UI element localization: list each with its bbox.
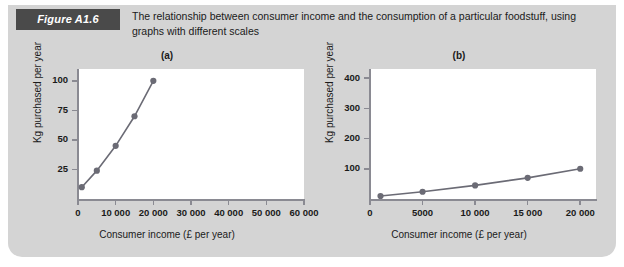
panel-b-y-tick — [364, 77, 369, 79]
panel-a-x-tick — [266, 200, 268, 205]
panel-b-x-tick-label: 10 000 — [450, 207, 500, 218]
figure-caption: The relationship between consumer income… — [132, 9, 602, 38]
panel-a-y-tick — [72, 139, 77, 141]
data-point-marker — [94, 168, 100, 174]
panel-b-x-tick — [527, 200, 529, 205]
panel-a-x-tick — [303, 200, 305, 205]
data-point-marker — [79, 184, 85, 190]
panel-a-y-tick-label: 75 — [20, 104, 68, 115]
chart-panel-a: (a) Kg purchased per year Consumer incom… — [20, 47, 314, 255]
panel-b-y-tick — [364, 168, 369, 170]
data-point-marker — [525, 175, 531, 181]
figure-number-badge: Figure A1.6 — [16, 9, 120, 30]
panel-b-x-tick-label: 0 — [345, 207, 395, 218]
data-point-marker — [150, 78, 156, 84]
series-line — [381, 169, 581, 196]
panel-a-x-tick — [77, 200, 79, 205]
data-point-marker — [377, 193, 383, 199]
panel-b-x-tick-label: 5000 — [398, 207, 448, 218]
panel-a-y-tick — [72, 80, 77, 82]
panel-b-x-tick-label: 15 000 — [503, 207, 553, 218]
figure-header: Figure A1.6 The relationship between con… — [8, 5, 616, 49]
panel-b-y-tick-label: 200 — [312, 132, 360, 143]
data-point-marker — [419, 189, 425, 195]
series-line — [82, 81, 154, 187]
panel-b-y-tick-label: 100 — [312, 162, 360, 173]
panel-b-x-tick — [474, 200, 476, 205]
panel-a-y-tick — [72, 169, 77, 171]
panel-b-x-tick-label: 20 000 — [555, 207, 605, 218]
panel-b-x-tick — [579, 200, 581, 205]
panel-b-x-tick — [369, 200, 371, 205]
panel-b-y-tick — [364, 138, 369, 140]
data-point-marker — [577, 166, 583, 172]
panel-a-x-tick — [115, 200, 117, 205]
data-point-marker — [113, 143, 119, 149]
chart-panel-b: (b) Kg purchased per year Consumer incom… — [312, 47, 606, 255]
panel-b-y-tick-label: 400 — [312, 72, 360, 83]
panel-a-y-tick-label: 50 — [20, 133, 68, 144]
panel-a-y-tick-label: 25 — [20, 163, 68, 174]
figure-container: Figure A1.6 The relationship between con… — [8, 5, 616, 257]
panel-b-y-tick — [364, 108, 369, 110]
panel-a-y-tick — [72, 110, 77, 112]
panel-b-y-tick-label: 300 — [312, 102, 360, 113]
panel-a-x-tick — [153, 200, 155, 205]
data-point-marker — [472, 182, 478, 188]
panel-a-x-tick — [190, 200, 192, 205]
data-point-marker — [131, 113, 137, 119]
panel-a-y-tick-label: 100 — [20, 74, 68, 85]
panel-a-x-tick — [228, 200, 230, 205]
panel-b-x-tick — [422, 200, 424, 205]
